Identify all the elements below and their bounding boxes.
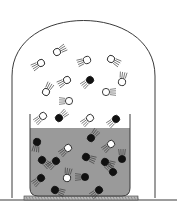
motion-trail [125,73,127,79]
motion-trail [124,72,125,78]
motion-trail [64,114,69,118]
molecule-circle [62,75,72,85]
molecule-circle [118,155,125,162]
beaker [30,114,130,196]
vapor-molecule [102,88,116,95]
vapor-molecule [59,97,73,104]
motion-trail [119,72,121,78]
base-plate [0,196,177,200]
motion-trail [80,118,85,122]
molecule-circle [85,113,95,123]
motion-trail [59,98,65,99]
vapor-molecule [57,75,72,88]
motion-trail [33,116,38,120]
motion-trail [84,85,89,89]
molecule-circle [41,87,51,97]
motion-trail [59,104,65,105]
molecule-circle [106,54,116,64]
molecule-circle [38,111,48,121]
motion-trail [110,89,116,90]
vapor-molecule [118,72,127,87]
motion-trail [60,109,65,113]
liquid-molecule [106,114,121,128]
vapor-molecule [41,82,54,97]
motion-trail [110,95,116,96]
motion-trail [76,58,82,61]
molecule-circle [36,58,46,68]
motion-trail [77,60,83,62]
motion-trail [80,80,85,84]
motion-trail [37,121,42,125]
motion-trail [110,124,115,128]
motion-trail [84,123,89,127]
vapor-molecule [52,44,67,57]
diagram-canvas [0,0,177,209]
molecule-circle [85,75,95,85]
motion-trail [122,72,123,78]
molecule-circle [102,88,109,95]
molecule-circle [52,47,62,57]
vapor-molecule [80,113,95,127]
molecule-circle [118,78,126,86]
motion-trail [106,119,111,123]
vapor-molecule [31,58,46,71]
molecule-circle [111,114,121,124]
molecule-circle [65,97,72,104]
vapor-molecule [76,55,91,66]
liquid-molecule [80,75,95,89]
vapor-molecule [106,54,121,67]
molecule-circle [54,113,64,123]
vapor-molecule [33,111,48,125]
liquid-molecule [54,109,69,123]
bell-jar-diagram [0,0,177,209]
molecule-circle [81,173,88,180]
molecule-circle [82,55,91,64]
